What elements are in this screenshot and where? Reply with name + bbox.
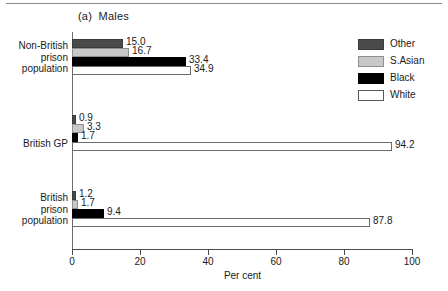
- bar-g0-other: [72, 39, 123, 48]
- x-axis-line: [72, 249, 413, 250]
- bar-g1-black: [72, 133, 78, 142]
- x-tick-80: [344, 250, 345, 255]
- bar-value-g2-sasian: 1.7: [81, 197, 95, 208]
- bar-value-g1-black: 1.7: [81, 130, 95, 141]
- bar-value-g2-white: 87.8: [373, 215, 392, 226]
- bar-g2-white: [72, 218, 370, 227]
- chart-title: (a) Males: [78, 10, 129, 22]
- group-label-british-prison-population: British prison population: [0, 192, 68, 227]
- legend-item-sasian: S.Asian: [358, 55, 448, 71]
- x-tick-20: [140, 250, 141, 255]
- bar-g1-other: [72, 115, 76, 124]
- bar-g0-white: [72, 66, 191, 75]
- legend-label-white: White: [390, 89, 416, 100]
- x-tick-label-40: 40: [202, 256, 213, 267]
- legend-item-white: White: [358, 89, 448, 105]
- x-tick-label-20: 20: [134, 256, 145, 267]
- bar-value-g1-white: 94.2: [395, 139, 414, 150]
- chart-legend: Other S.Asian Black White: [358, 38, 448, 106]
- bar-g1-white: [72, 142, 392, 151]
- bar-g2-sasian: [72, 200, 78, 209]
- x-tick-label-80: 80: [338, 256, 349, 267]
- x-tick-40: [208, 250, 209, 255]
- bar-g2-other: [72, 191, 76, 200]
- top-divider-rule: [6, 3, 442, 4]
- legend-swatch-white-icon: [358, 90, 384, 101]
- legend-swatch-other-icon: [358, 39, 384, 50]
- legend-label-other: Other: [390, 38, 415, 49]
- bar-value-g0-sasian: 16.7: [132, 45, 151, 56]
- x-tick-100: [412, 250, 413, 255]
- x-tick-60: [276, 250, 277, 255]
- x-axis-title: Per cent: [72, 270, 413, 281]
- bar-value-g0-white: 34.9: [194, 63, 213, 74]
- x-tick-label-60: 60: [270, 256, 281, 267]
- bar-g2-black: [72, 209, 104, 218]
- x-tick-0: [72, 250, 73, 255]
- legend-swatch-black-icon: [358, 73, 384, 84]
- legend-item-other: Other: [358, 38, 448, 54]
- legend-label-black: Black: [390, 72, 414, 83]
- x-tick-label-0: 0: [69, 256, 75, 267]
- bar-g0-sasian: [72, 48, 129, 57]
- group-label-british-gp: British GP: [0, 138, 68, 150]
- group-label-non-british-prison-population: Non-British prison population: [0, 40, 68, 75]
- x-tick-label-100: 100: [404, 256, 421, 267]
- legend-item-black: Black: [358, 72, 448, 88]
- legend-label-sasian: S.Asian: [390, 55, 424, 66]
- bar-value-g2-black: 9.4: [107, 206, 121, 217]
- legend-swatch-sasian-icon: [358, 56, 384, 67]
- bar-g0-black: [72, 57, 186, 66]
